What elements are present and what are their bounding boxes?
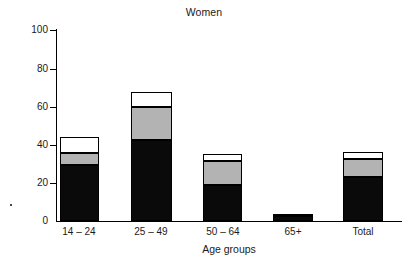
x-tick-label-50-64: 50 – 64 (188, 226, 258, 237)
y-tick-label-100: 100 (2, 24, 48, 35)
bar-segment-gray[interactable] (343, 159, 383, 177)
y-tick-mark-80 (50, 69, 57, 70)
bar-group[interactable] (60, 137, 99, 221)
bar-group[interactable] (131, 92, 172, 221)
plot-area (57, 30, 401, 221)
bar-segment-black[interactable] (343, 177, 383, 221)
y-tick-label-20: 20 (2, 176, 48, 187)
y-tick-mark-60 (50, 107, 57, 108)
bar-segment-white[interactable] (131, 92, 172, 107)
chart-title: Women (0, 6, 408, 18)
y-tick-mark-100 (50, 30, 57, 31)
bar-segment-gray[interactable] (60, 153, 99, 164)
bar-segment-black[interactable] (60, 165, 99, 221)
x-tick-label-total: Total (328, 226, 398, 237)
bar-segment-gray[interactable] (203, 161, 242, 185)
bar-segment-white[interactable] (203, 154, 242, 161)
y-tick-label-0: 0 (2, 215, 48, 226)
y-tick-label-80: 80 (2, 62, 48, 73)
x-tick-label-65plus: 65+ (258, 226, 328, 237)
y-tick-label-60: 60 (2, 100, 48, 111)
bar-segment-gray[interactable] (273, 214, 313, 216)
bar-segment-gray[interactable] (131, 107, 172, 139)
bar-segment-white[interactable] (343, 152, 383, 159)
x-axis-title: Age groups (57, 243, 401, 255)
bar-segment-black[interactable] (203, 185, 242, 221)
bar-group[interactable] (273, 215, 313, 221)
bar-group[interactable] (343, 152, 383, 221)
y-tick-label-40: 40 (2, 138, 48, 149)
bar-segment-black[interactable] (273, 216, 313, 221)
x-tick-label-25-49: 25 – 49 (116, 226, 186, 237)
scan-artifact-dot (10, 204, 12, 206)
bar-segment-black[interactable] (131, 140, 172, 221)
bar-segment-white[interactable] (60, 137, 99, 153)
bar-group[interactable] (203, 154, 242, 221)
chart-figure: Women 100 80 60 40 20 0 14 – 24 25 – 49 … (0, 0, 408, 264)
y-tick-mark-40 (50, 145, 57, 146)
x-tick-label-14-24: 14 – 24 (44, 226, 114, 237)
y-tick-mark-20 (50, 183, 57, 184)
